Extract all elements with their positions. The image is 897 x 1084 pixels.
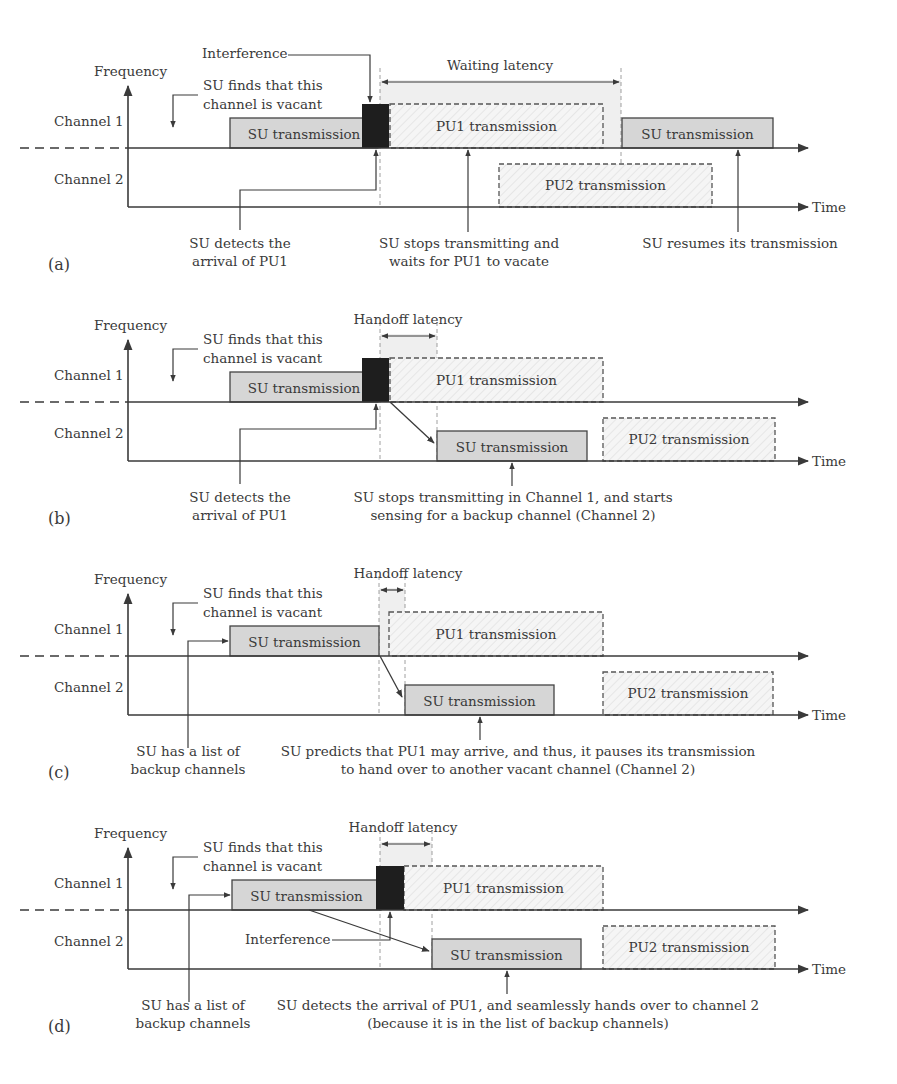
panel-label: (d) bbox=[48, 1017, 71, 1036]
vacant-note-line2: channel is vacant bbox=[203, 96, 323, 112]
note-1-line-0: SU stops transmitting in Channel 1, and … bbox=[353, 489, 672, 505]
handover-arrow bbox=[390, 402, 434, 443]
time-axis-label: Time bbox=[812, 199, 846, 215]
su-transmission-ch2-label: SU transmission bbox=[450, 947, 563, 963]
note-0-line-0: SU detects the bbox=[189, 235, 290, 251]
channel1-label: Channel 1 bbox=[54, 367, 124, 383]
su-transmission-ch2-label: SU transmission bbox=[423, 693, 536, 709]
su-transmission-ch2-label: SU transmission bbox=[456, 439, 569, 455]
channel2-label: Channel 2 bbox=[54, 171, 124, 187]
note-1-line-1: (because it is in the list of backup cha… bbox=[367, 1015, 669, 1031]
pu2-transmission-label: PU2 transmission bbox=[545, 177, 666, 193]
channel1-label: Channel 1 bbox=[54, 621, 124, 637]
backup-list-pointer-arrow bbox=[188, 641, 228, 748]
channel2-label: Channel 2 bbox=[54, 679, 124, 695]
note-0-line-1: backup channels bbox=[131, 761, 246, 777]
pu2-transmission-label: PU2 transmission bbox=[628, 685, 749, 701]
panel-b: Handoff latencyPU1 transmissionPU2 trans… bbox=[20, 311, 846, 528]
note-0-line-1: arrival of PU1 bbox=[192, 507, 288, 523]
vacant-pointer-arrow bbox=[173, 857, 198, 889]
pu1-transmission-label: PU1 transmission bbox=[436, 118, 557, 134]
latency-label: Handoff latency bbox=[354, 565, 463, 581]
interference-pointer-arrow bbox=[332, 912, 390, 940]
frequency-axis-label: Frequency bbox=[94, 317, 167, 333]
vacant-note-line1: SU finds that this bbox=[203, 585, 323, 601]
vacant-pointer-arrow bbox=[173, 349, 198, 381]
panel-d: Handoff latencyPU1 transmissionPU2 trans… bbox=[20, 819, 846, 1036]
interference-label: Interference bbox=[202, 45, 288, 61]
su-transmission-ch1-label: SU transmission bbox=[248, 634, 361, 650]
pu1-transmission-label: PU1 transmission bbox=[436, 626, 557, 642]
channel2-label: Channel 2 bbox=[54, 933, 124, 949]
detects-pu1-pointer-arrow bbox=[240, 404, 376, 484]
panel-label: (c) bbox=[48, 763, 69, 782]
note-0-line-0: SU has a list of bbox=[136, 743, 241, 759]
vacant-pointer-arrow bbox=[173, 95, 198, 127]
note-1-line-0: SU detects the arrival of PU1, and seaml… bbox=[277, 997, 759, 1013]
interference-block bbox=[362, 358, 389, 402]
interference-label: Interference bbox=[245, 931, 331, 947]
note-1-line-1: to hand over to another vacant channel (… bbox=[341, 761, 695, 777]
vacant-note-line2: channel is vacant bbox=[203, 604, 323, 620]
latency-label: Handoff latency bbox=[354, 311, 463, 327]
interference-block bbox=[376, 866, 404, 910]
vacant-note-line1: SU finds that this bbox=[203, 839, 323, 855]
note-0-line-0: SU has a list of bbox=[141, 997, 246, 1013]
backup-list-pointer-arrow bbox=[189, 895, 230, 1002]
spectrum-handoff-diagram: Waiting latencyPU1 transmissionPU2 trans… bbox=[0, 0, 897, 1084]
su-transmission-ch1-label: SU transmission bbox=[250, 888, 363, 904]
panel-label: (b) bbox=[48, 509, 71, 528]
frequency-axis-label: Frequency bbox=[94, 63, 167, 79]
su-transmission-ch1-label: SU transmission bbox=[248, 380, 361, 396]
panel-a: Waiting latencyPU1 transmissionPU2 trans… bbox=[20, 45, 846, 274]
frequency-axis-label: Frequency bbox=[94, 571, 167, 587]
pu2-transmission-label: PU2 transmission bbox=[629, 431, 750, 447]
vacant-note-line1: SU finds that this bbox=[203, 77, 323, 93]
panel-c: Handoff latencyPU1 transmissionPU2 trans… bbox=[20, 565, 846, 782]
su-transmission-ch1-label: SU transmission bbox=[248, 126, 361, 142]
panel-label: (a) bbox=[48, 255, 70, 274]
channel2-label: Channel 2 bbox=[54, 425, 124, 441]
time-axis-label: Time bbox=[812, 707, 846, 723]
interference-block bbox=[362, 104, 389, 148]
note-0-line-0: SU detects the bbox=[189, 489, 290, 505]
pu2-transmission-label: PU2 transmission bbox=[629, 939, 750, 955]
pu1-transmission-label: PU1 transmission bbox=[436, 372, 557, 388]
note-0-line-1: backup channels bbox=[136, 1015, 251, 1031]
note-1-line-0: SU stops transmitting and bbox=[379, 235, 559, 251]
pu1-transmission-label: PU1 transmission bbox=[443, 880, 564, 896]
su-transmission-ch1-resumed-label: SU transmission bbox=[641, 126, 754, 142]
vacant-note-line1: SU finds that this bbox=[203, 331, 323, 347]
channel1-label: Channel 1 bbox=[54, 113, 124, 129]
note-2-line-0: SU resumes its transmission bbox=[642, 235, 838, 251]
latency-label: Waiting latency bbox=[447, 57, 553, 73]
time-axis-label: Time bbox=[812, 961, 846, 977]
vacant-pointer-arrow bbox=[173, 603, 198, 635]
time-axis-label: Time bbox=[812, 453, 846, 469]
vacant-note-line2: channel is vacant bbox=[203, 350, 323, 366]
note-1-line-1: waits for PU1 to vacate bbox=[389, 253, 549, 269]
detects-pu1-pointer-arrow bbox=[240, 150, 376, 230]
handover-arrow bbox=[380, 656, 402, 697]
note-1-line-0: SU predicts that PU1 may arrive, and thu… bbox=[281, 743, 756, 759]
frequency-axis-label: Frequency bbox=[94, 825, 167, 841]
latency-label: Handoff latency bbox=[349, 819, 458, 835]
vacant-note-line2: channel is vacant bbox=[203, 858, 323, 874]
channel1-label: Channel 1 bbox=[54, 875, 124, 891]
note-1-line-1: sensing for a backup channel (Channel 2) bbox=[370, 507, 655, 523]
note-0-line-1: arrival of PU1 bbox=[192, 253, 288, 269]
